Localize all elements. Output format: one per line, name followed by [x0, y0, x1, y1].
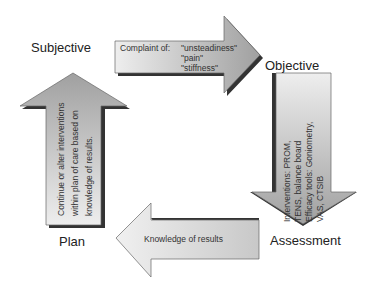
plan-text: Continue or alter interventions: [56, 103, 66, 216]
complaint-label: Complaint of:: [120, 43, 170, 53]
complaint-item: "pain": [181, 53, 203, 63]
objective-text: TENS, balance board: [293, 141, 303, 222]
label-assessment: Assessment: [270, 233, 341, 248]
complaint-item: "stiffness": [181, 63, 218, 73]
label-objective: Objective: [265, 58, 319, 73]
plan-text: knowledge of results.: [84, 136, 94, 216]
objective-text: Interventions: PROM,: [282, 141, 292, 222]
label-plan: Plan: [59, 234, 85, 249]
assessment-text: Knowledge of results: [144, 234, 223, 244]
complaint-item: "unsteadiness": [181, 43, 237, 53]
label-subjective: Subjective: [31, 40, 91, 55]
objective-text: VAS, CTSIB: [315, 176, 325, 222]
objective-text: Efficacy tools: Goniometry,: [304, 122, 314, 222]
plan-text: within plan of care based on: [70, 110, 80, 216]
